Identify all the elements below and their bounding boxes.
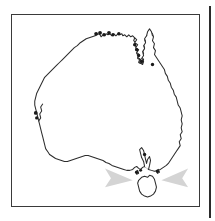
australia-map-svg xyxy=(12,15,199,206)
cape-york-detail xyxy=(147,29,153,36)
right-pointer-arrow xyxy=(161,168,188,187)
sampling-site-gulf-2 xyxy=(135,48,138,51)
sampling-site-gulf-1 xyxy=(133,43,136,46)
map-panel xyxy=(11,14,200,207)
sampling-site-adelaide xyxy=(143,153,146,156)
sampling-site-darwin-2 xyxy=(111,33,114,36)
australia-mainland-outline xyxy=(35,32,182,172)
sampling-site-perth-2 xyxy=(35,116,38,119)
sampling-site-arnhem-1 xyxy=(117,32,120,35)
sampling-site-nw-kimberley-1 xyxy=(94,32,98,36)
sampling-site-cape-york-1 xyxy=(140,60,143,63)
sampling-site-bass-strait-1 xyxy=(135,171,138,174)
tasmania-outline xyxy=(138,175,157,197)
sampling-site-gulf-3 xyxy=(137,54,140,57)
sampling-site-bass-strait-3 xyxy=(156,170,159,173)
figure-panel xyxy=(0,0,215,221)
adjacent-panel-divider xyxy=(209,6,211,218)
sampling-site-cape-york-2 xyxy=(151,63,154,66)
sampling-site-nw-kimberley-2 xyxy=(98,31,102,35)
sampling-site-bass-strait-2 xyxy=(139,169,142,172)
left-pointer-arrow xyxy=(105,168,133,187)
sampling-site-perth-1 xyxy=(34,111,38,115)
sampling-site-nw-kimberley-3 xyxy=(102,33,105,36)
sampling-site-darwin-1 xyxy=(107,31,111,35)
